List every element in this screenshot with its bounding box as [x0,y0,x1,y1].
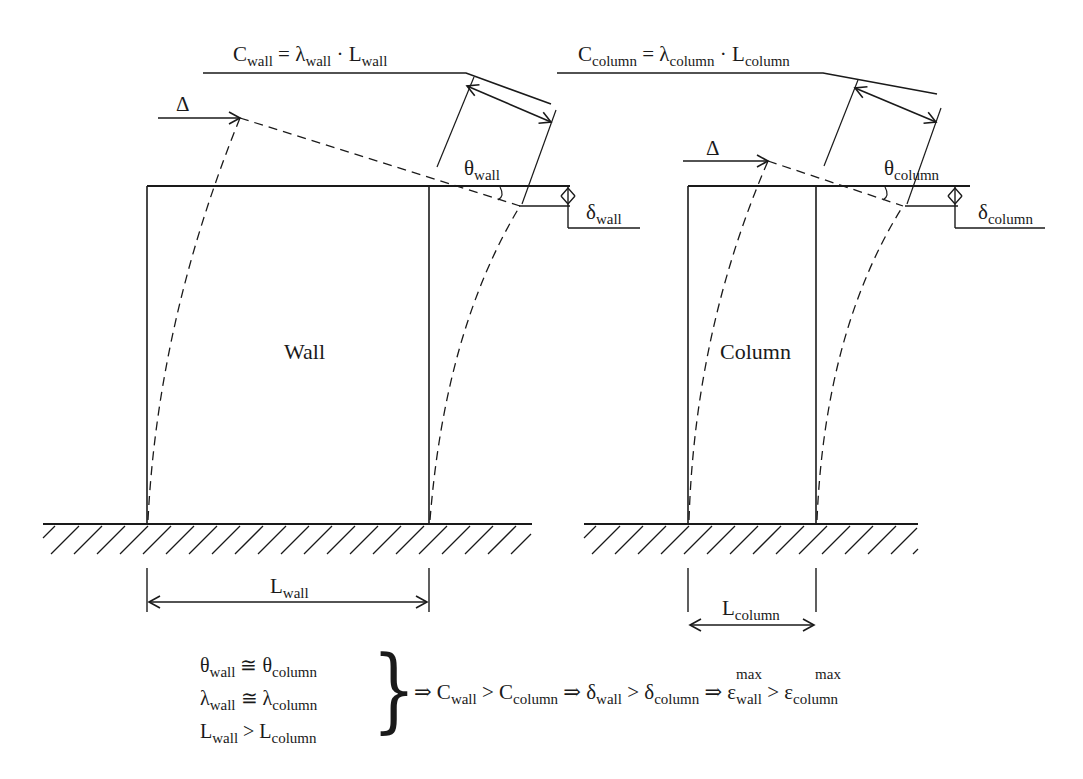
wall-column-diagram [0,0,1083,779]
column-label: Column [720,341,791,363]
wall-rotation-angle-mark [498,187,502,200]
wall-capacity-equation: Cwall = λwall · Lwall [233,44,387,69]
implies-arrow-1: ⇒ [414,680,432,704]
column-length-label: Lcolumn [722,598,780,623]
theta-column-label: θcolumn [884,158,939,183]
implies-arrow-3: ⇒ [704,680,722,704]
conditions-block: θwall ≅ θcolumn λwall ≅ λcolumn Lwall > … [200,652,317,751]
strain-comparison: εmaxwall > εmaxcolumn [727,680,838,704]
wall-capacity-dimension [467,86,551,122]
column-delta-label: Δ [706,138,720,159]
column-ground [584,524,918,554]
condition-theta: θwall ≅ θcolumn [200,652,317,685]
condition-length: Lwall > Lcolumn [200,718,317,751]
column-capacity-dimension [855,88,936,122]
conclusion-chain: ⇒ Cwall > Ccolumn ⇒ δwall > δcolumn ⇒ εm… [414,680,838,708]
displacement-comparison: δwall > δcolumn [586,680,699,704]
wall-ground [43,524,532,554]
column-capacity-leader [557,73,937,94]
condition-lambda: λwall ≅ λcolumn [200,685,317,718]
capacity-comparison: Cwall > Ccolumn [437,680,558,704]
wall-delta-label: Δ [176,94,190,115]
wall-label: Wall [284,341,325,363]
wall-vertical-displacement-marker [519,186,640,228]
column-capacity-equation: Ccolumn = λcolumn · Lcolumn [578,44,790,69]
wall-outline [147,186,570,524]
implies-arrow-2: ⇒ [563,680,581,704]
right-brace: } [372,644,416,736]
delta-wall-label: δwall [586,202,622,227]
column-rotation-angle-mark [883,187,887,200]
delta-column-label: δcolumn [978,202,1033,227]
wall-length-label: Lwall [270,576,309,601]
theta-wall-label: θwall [464,158,500,183]
